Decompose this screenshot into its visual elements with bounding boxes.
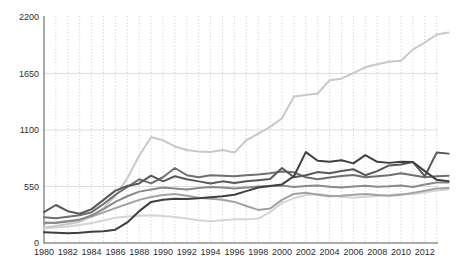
- x-tick-label: 2010: [391, 247, 411, 257]
- x-tick-label: 1994: [201, 247, 221, 257]
- x-tick-label: 1980: [34, 247, 54, 257]
- x-tick-label: 1992: [177, 247, 197, 257]
- x-tick-label: 1988: [129, 247, 149, 257]
- x-tick-label: 1986: [105, 247, 125, 257]
- x-tick-label: 2004: [320, 247, 340, 257]
- line-chart: 0550110016502200198019821984198619881990…: [0, 0, 456, 268]
- x-tick-label: 1996: [224, 247, 244, 257]
- x-tick-label: 1990: [153, 247, 173, 257]
- x-tick-label: 1982: [58, 247, 78, 257]
- y-tick-label: 1650: [19, 69, 39, 79]
- x-tick-label: 1984: [82, 247, 102, 257]
- x-tick-label: 2012: [415, 247, 435, 257]
- x-tick-label: 1998: [248, 247, 268, 257]
- y-tick-label: 550: [24, 182, 39, 192]
- x-tick-label: 2006: [343, 247, 363, 257]
- y-tick-label: 2200: [19, 12, 39, 22]
- chart-svg: 0550110016502200198019821984198619881990…: [0, 0, 456, 268]
- x-tick-label: 2008: [367, 247, 387, 257]
- x-tick-label: 2002: [296, 247, 316, 257]
- x-tick-label: 2000: [272, 247, 292, 257]
- y-tick-label: 1100: [20, 125, 39, 135]
